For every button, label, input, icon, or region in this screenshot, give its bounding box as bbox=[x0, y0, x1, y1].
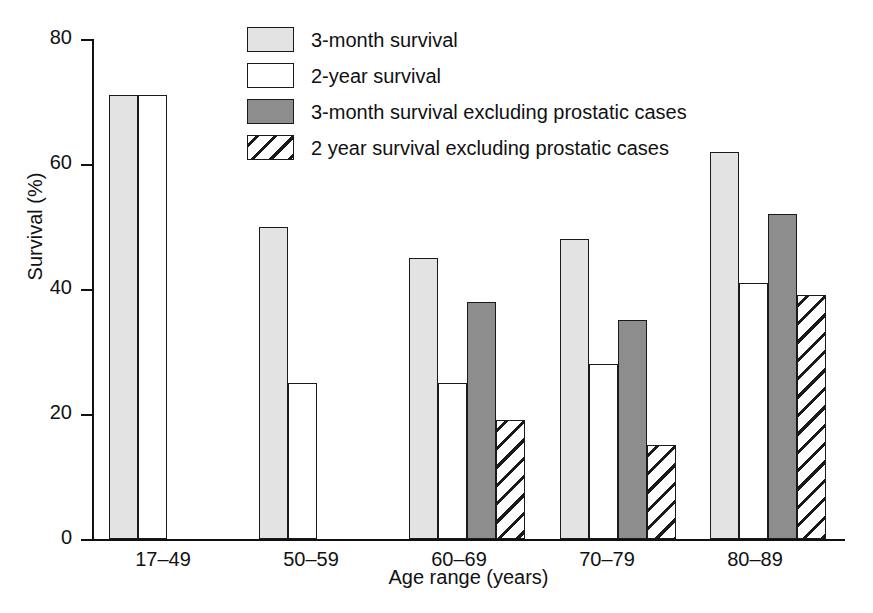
legend-label: 2-year survival bbox=[311, 66, 441, 86]
y-tick-20 bbox=[81, 414, 92, 416]
bar-group bbox=[695, 39, 845, 539]
bar bbox=[259, 227, 288, 540]
y-tick-40 bbox=[81, 289, 92, 291]
bar bbox=[438, 383, 467, 539]
dark-gray-swatch-icon bbox=[247, 99, 294, 124]
white-swatch-icon bbox=[247, 63, 294, 88]
bar bbox=[467, 302, 496, 540]
survival-bar-chart: 80 60 40 20 0 Survival (%) Age range (ye… bbox=[0, 0, 873, 613]
x-tick-label-3: 70–79 bbox=[532, 548, 682, 571]
bar bbox=[496, 420, 525, 539]
x-tick-label-0: 17–49 bbox=[88, 548, 238, 571]
x-tick-label-2: 60–69 bbox=[384, 548, 534, 571]
bar bbox=[589, 364, 618, 539]
bar bbox=[560, 239, 589, 539]
bar bbox=[288, 383, 317, 539]
x-tick-label-4: 80–89 bbox=[680, 548, 830, 571]
legend-label: 3-month survival excluding prostatic cas… bbox=[311, 102, 687, 122]
bar bbox=[138, 95, 167, 539]
bar bbox=[109, 95, 138, 539]
y-tick-label-0: 0 bbox=[14, 526, 72, 549]
legend-item: 2-year survival bbox=[247, 62, 687, 89]
x-axis-line bbox=[92, 539, 845, 541]
hatched-swatch-icon bbox=[247, 135, 294, 160]
y-tick-60 bbox=[81, 164, 92, 166]
legend-item: 3-month survival bbox=[247, 26, 687, 53]
bar bbox=[768, 214, 797, 539]
bar bbox=[409, 258, 438, 539]
legend-label: 3-month survival bbox=[311, 30, 458, 50]
legend-item: 2 year survival excluding prostatic case… bbox=[247, 134, 687, 161]
bar bbox=[647, 445, 676, 539]
y-tick-0 bbox=[81, 539, 92, 541]
y-tick-label-80: 80 bbox=[14, 26, 72, 49]
bar bbox=[618, 320, 647, 539]
bar bbox=[739, 283, 768, 539]
x-tick-label-1: 50–59 bbox=[236, 548, 386, 571]
y-tick-label-20: 20 bbox=[14, 401, 72, 424]
bar bbox=[710, 152, 739, 540]
chart-legend: 3-month survival 2-year survival 3-month… bbox=[247, 26, 687, 161]
legend-item: 3-month survival excluding prostatic cas… bbox=[247, 98, 687, 125]
light-gray-swatch-icon bbox=[247, 27, 294, 52]
bar-group bbox=[94, 39, 244, 539]
y-axis-label: Survival (%) bbox=[24, 117, 47, 337]
legend-label: 2 year survival excluding prostatic case… bbox=[311, 138, 669, 158]
bar bbox=[797, 295, 826, 539]
y-tick-80 bbox=[81, 39, 92, 41]
